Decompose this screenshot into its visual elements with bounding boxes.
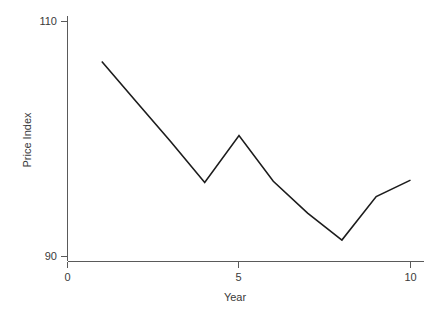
line-chart: 110 90 0 5 10 Year Price Index	[0, 0, 437, 313]
x-tick-label-5: 5	[235, 271, 241, 283]
x-tick-label-0: 0	[64, 271, 70, 283]
y-tick-label-110: 110	[39, 15, 57, 27]
chart-background	[0, 0, 437, 313]
y-tick-label-90: 90	[45, 250, 57, 262]
chart-container: 110 90 0 5 10 Year Price Index	[0, 0, 437, 313]
x-axis-title: Year	[224, 291, 247, 303]
y-axis-title: Price Index	[21, 112, 33, 168]
x-tick-label-10: 10	[404, 271, 416, 283]
